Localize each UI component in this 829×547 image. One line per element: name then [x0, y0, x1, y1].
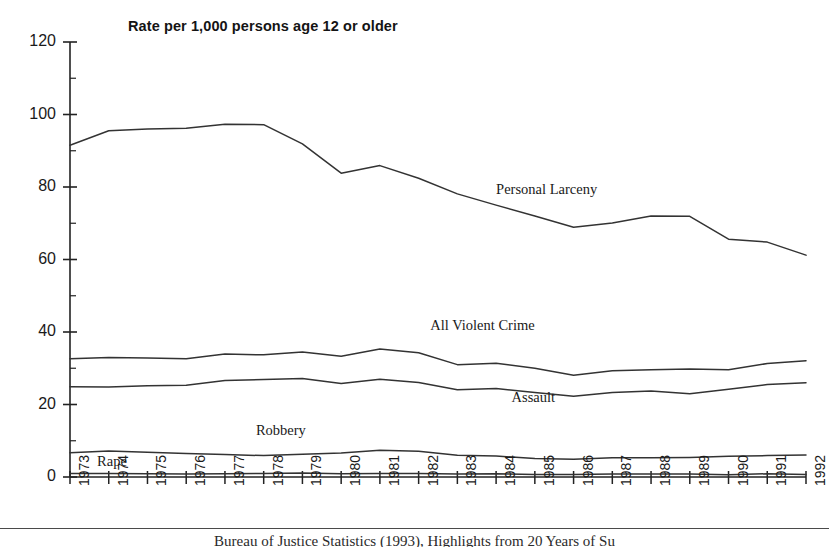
footer-caption: Bureau of Justice Statistics (1993), Hig…	[0, 533, 829, 547]
y-axis-tick-label: 120	[10, 32, 56, 50]
series-line-assault	[70, 378, 806, 396]
x-axis-tick-label: 1988	[657, 455, 673, 486]
series-line-all-violent-crime	[70, 349, 806, 375]
y-axis-tick-label: 40	[10, 322, 56, 340]
x-axis-tick-label: 1980	[347, 455, 363, 486]
x-axis-tick-label: 1983	[463, 455, 479, 486]
x-axis-tick-label: 1989	[696, 455, 712, 486]
chart-series-lines	[70, 124, 806, 475]
series-label-rape: Rape	[97, 453, 127, 470]
series-label-robbery: Robbery	[256, 422, 306, 439]
series-label-all-violent-crime: All Violent Crime	[430, 317, 534, 334]
x-axis-tick-label: 1986	[580, 455, 596, 486]
x-axis-tick-label: 1987	[618, 455, 634, 486]
y-axis-tick-label: 20	[10, 395, 56, 413]
x-axis-tick-label: 1976	[192, 455, 208, 486]
x-axis-tick-label: 1977	[231, 455, 247, 486]
x-axis-tick-label: 1979	[308, 455, 324, 486]
y-axis-tick-label: 100	[10, 105, 56, 123]
x-axis-tick-label: 1973	[76, 455, 92, 486]
y-axis-tick-label: 80	[10, 177, 56, 195]
x-axis-tick-label: 1981	[386, 455, 402, 486]
x-axis-tick-label: 1991	[773, 455, 789, 486]
y-axis-tick-label: 60	[10, 250, 56, 268]
series-label-assault: Assault	[512, 389, 556, 406]
series-line-personal-larceny	[70, 124, 806, 255]
x-axis-tick-label: 1978	[270, 455, 286, 486]
x-axis-tick-label: 1990	[735, 455, 751, 486]
x-axis-tick-label: 1982	[425, 455, 441, 486]
x-axis-tick-label: 1985	[541, 455, 557, 486]
x-axis-tick-label: 1992	[812, 455, 828, 486]
y-axis-tick-label: 0	[10, 467, 56, 485]
x-axis-tick-label: 1984	[502, 455, 518, 486]
chart-axes	[63, 42, 806, 484]
footer-divider	[0, 528, 829, 529]
x-axis-tick-label: 1975	[153, 455, 169, 486]
chart-figure: Rate per 1,000 persons age 12 or older 0…	[0, 0, 829, 547]
series-label-personal-larceny: Personal Larceny	[496, 181, 597, 198]
